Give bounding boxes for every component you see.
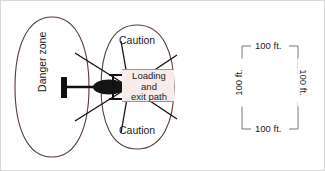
dimension-left-label: 100 ft. — [233, 59, 244, 107]
dimension-top-label: 100 ft. — [253, 40, 283, 51]
machine-body — [93, 80, 125, 95]
loading-and-exit-path-label: Loading and exit path — [123, 71, 175, 103]
diagram-figure: Danger zone Caution Caution Loading and … — [0, 0, 325, 171]
loading-path-line-3: exit path — [123, 92, 175, 103]
caution-top-label: Caution — [119, 35, 155, 47]
dimension-right-label: 100 ft. — [298, 59, 309, 107]
dimension-square — [242, 46, 298, 129]
caution-bottom-label: Caution — [119, 125, 155, 137]
danger-zone-label: Danger zone — [37, 32, 49, 92]
dimension-bottom-label: 100 ft. — [253, 123, 283, 134]
machine-front-bar — [61, 77, 67, 98]
